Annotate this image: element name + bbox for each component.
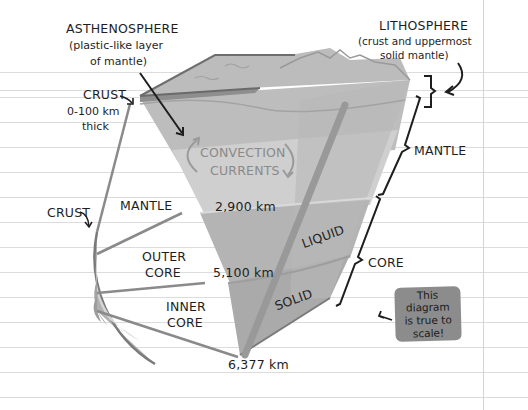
crust-thickness-label: 0-100 km: [67, 106, 120, 118]
core-right-label: CORE: [368, 256, 404, 269]
crust-top-label: CRUST: [83, 88, 126, 101]
scale-note-line2: is true to: [395, 313, 461, 327]
lithosphere-title: LITHOSPHERE: [379, 19, 468, 32]
lithosphere-desc-line2: solid mantle): [380, 50, 449, 61]
scale-note-line1: This diagram: [394, 288, 461, 315]
mantle-right-label: MANTLE: [414, 144, 466, 157]
depth-outer-core-label: 5,100 km: [213, 266, 274, 279]
arrow-icon: [446, 63, 462, 95]
convection-label-line1: CONVECTION: [200, 146, 286, 159]
convection-label-line2: CURRENTS: [210, 164, 280, 177]
asthenosphere-desc-line1: (plastic-like layer: [69, 40, 163, 52]
depth-center-label: 6,377 km: [228, 358, 289, 371]
scale-note-line3: scale!: [395, 326, 461, 340]
inner-core-label-line1: INNER: [166, 300, 206, 313]
asthenosphere-title: ASTHENOSPHERE: [66, 22, 179, 35]
arrow-icon: [379, 311, 392, 320]
outer-core-label-line2: CORE: [145, 266, 181, 279]
inner-core-label-line2: CORE: [167, 316, 203, 329]
outer-core-label-line1: OUTER: [142, 250, 186, 263]
lithosphere-desc-line1: (crust and uppermost: [358, 36, 472, 47]
mantle-left-label: MANTLE: [120, 199, 172, 212]
brace-lithosphere: [424, 76, 435, 107]
asthenosphere-desc-line2: of mantle): [90, 56, 147, 68]
scale-note: This diagram is true to scale!: [394, 286, 461, 342]
crust-thick-label: thick: [82, 121, 109, 133]
depth-mantle-label: 2,900 km: [215, 200, 276, 213]
crust-left-label: CRUST: [47, 206, 90, 219]
